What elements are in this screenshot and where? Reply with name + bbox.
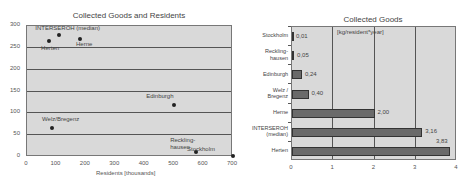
scatter-point [57, 33, 61, 37]
scatter-gridline [27, 112, 231, 113]
bar-category-label: Welz /Bregenz [240, 87, 288, 100]
bar [292, 147, 450, 156]
bar-value-label: 0,40 [312, 90, 324, 96]
scatter-point-label: Welz/Bregenz [42, 116, 79, 123]
bar-category-label: INTERSEROH(median) [240, 125, 288, 138]
bar-category-label: Edinburgh [240, 71, 288, 78]
bar-category-label: Herten [240, 147, 288, 154]
bar-x-tick: 4 [450, 164, 462, 170]
bar-gridline [415, 27, 416, 159]
scatter-y-tick: 250 [6, 43, 20, 49]
scatter-y-tick: 100 [6, 108, 20, 114]
bar [292, 109, 375, 118]
scatter-gridline [27, 134, 231, 135]
scatter-x-tick: 400 [136, 160, 152, 166]
scatter-title: Collected Goods and Residents [26, 11, 232, 20]
bar-value-label: 3,16 [425, 128, 437, 134]
scatter-gridline [27, 69, 231, 70]
scatter-point-label: Herne [76, 41, 92, 48]
scatter-y-tick: 50 [6, 130, 20, 136]
bar-category-label: Herne [240, 109, 288, 116]
bar-axis-tick [288, 64, 291, 65]
scatter-x-tick: 500 [165, 160, 181, 166]
bar-category-label: Reckling-hausen [240, 48, 288, 61]
scatter-gridline [27, 91, 231, 92]
bar-value-label: 0,01 [296, 33, 308, 39]
scatter-y-tick: 200 [6, 65, 20, 71]
scatter-x-axis-label: Residents [thousands] [96, 170, 155, 176]
bar-axis-tick [288, 26, 291, 27]
scatter-point-label: Herten [41, 45, 59, 52]
scatter-point [47, 39, 51, 43]
scatter-point-label: Stockholm [187, 146, 215, 153]
scatter-point-label: INTERSEROH (median) [35, 25, 100, 32]
bar-chart: Collected Goods 0,010,050,240,402,003,16… [240, 0, 468, 185]
bar [292, 51, 294, 60]
bar-x-tick: 2 [368, 164, 380, 170]
bar-axis-tick [288, 45, 291, 46]
bar-axis-tick [288, 83, 291, 84]
bar-x-tick: 3 [409, 164, 421, 170]
bar-category-label: Stockholm [240, 32, 288, 39]
scatter-x-tick: 700 [224, 160, 240, 166]
bar-plot-area: 0,010,050,240,402,003,163,83 [291, 26, 456, 160]
bar [292, 90, 309, 99]
scatter-point [231, 154, 235, 158]
bar-axis-tick [288, 141, 291, 142]
scatter-point [172, 103, 176, 107]
bar [292, 32, 294, 41]
bar-x-tick: 1 [326, 164, 338, 170]
scatter-point-label: Edinburgh [146, 93, 173, 100]
scatter-y-tick: 0 [6, 152, 20, 158]
bar-value-label: 0,24 [305, 71, 317, 77]
bar-value-label: 0,05 [297, 52, 309, 58]
bar-gridline [374, 27, 375, 159]
bar-unit-label: [kg/resident*year] [337, 29, 384, 35]
scatter-x-tick: 600 [195, 160, 211, 166]
bar-x-tick: 0 [285, 164, 297, 170]
bar-value-label: 2,00 [378, 109, 390, 115]
bar-title: Collected Goods [291, 15, 455, 24]
bar-value-label: 3,83 [436, 138, 448, 144]
bar-axis-tick [288, 103, 291, 104]
scatter-x-tick: 300 [106, 160, 122, 166]
bar-axis-tick [288, 122, 291, 123]
scatter-chart: Collected Goods and Residents INTERSEROH… [0, 0, 240, 185]
scatter-x-tick: 200 [77, 160, 93, 166]
scatter-point [50, 126, 54, 130]
scatter-y-tick: 300 [6, 21, 20, 27]
scatter-y-tick: 150 [6, 87, 20, 93]
scatter-x-tick: 100 [47, 160, 63, 166]
scatter-x-tick: 0 [18, 160, 34, 166]
bar-gridline [332, 27, 333, 159]
bar [292, 70, 302, 79]
bar [292, 128, 422, 137]
scatter-plot-area: INTERSEROH (median)HertenHerneEdinburghW… [26, 25, 232, 156]
